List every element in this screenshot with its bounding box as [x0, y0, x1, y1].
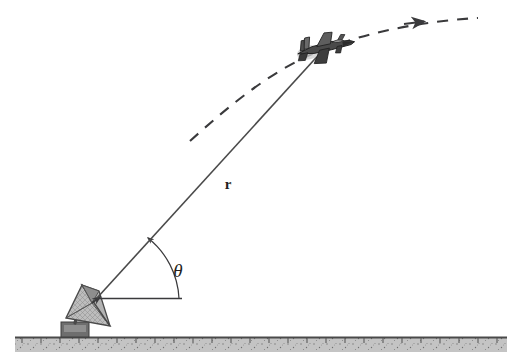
elevation-angle-label: θ: [173, 260, 182, 281]
flight-trajectory-dashed: [190, 18, 478, 141]
radar-base-highlight: [64, 325, 86, 332]
ground-fill: [15, 337, 507, 352]
fighter-jet: [294, 27, 358, 69]
line-of-sight-r: [97, 49, 324, 298]
range-vector-label: r: [225, 176, 232, 192]
diagram-canvas: r θ: [0, 0, 521, 364]
radar-tracking-diagram: r θ: [0, 0, 521, 364]
ground: [15, 337, 507, 352]
